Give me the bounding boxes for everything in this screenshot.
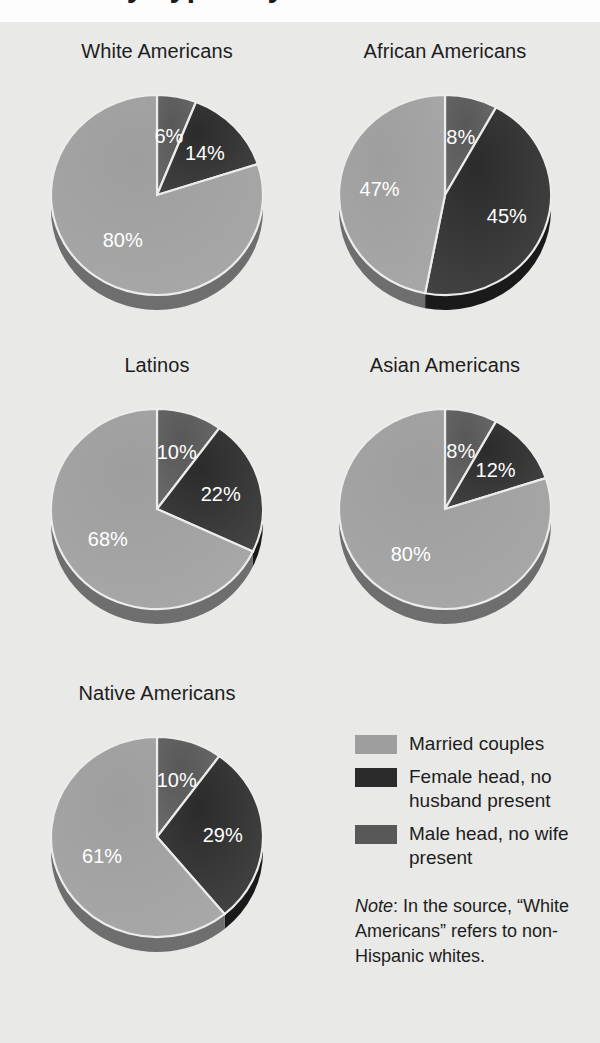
figure-note: Note: In the source, “White Americans” r… [355,894,595,969]
pie-slice-value-label: 22% [201,483,241,505]
legend-swatch-married [355,735,397,754]
pie-slice-value-label: 10% [157,441,197,463]
pie-slice-value-label: 45% [487,205,527,227]
pie-slice-value-label: 61% [82,845,122,867]
note-lead: Note [355,896,393,916]
legend-item-label: Female head, no husband present [409,765,585,813]
pie-slice-value-label: 8% [446,440,475,462]
pie-chart-african-americans: African Americans8%45%47% [300,40,590,325]
pie-chart-title: Asian Americans [300,354,590,377]
pie-chart-latinos: Latinos10%22%68% [12,354,302,639]
pie-slice-value-label: 12% [476,459,516,481]
pie-slice-value-label: 8% [446,126,475,148]
cropped-figure-title: Family Types by Race [0,0,600,22]
figure-panel: White Americans6%14%80%African Americans… [0,22,600,1043]
pie-chart-native-americans: Native Americans10%29%61% [12,682,302,967]
pie-chart-title: Latinos [12,354,302,377]
pie-slice-value-label: 47% [360,178,400,200]
pie-graphic: 6%14%80% [12,67,302,325]
pie-graphic: 10%29%61% [12,709,302,967]
pie-slice-value-label: 6% [154,125,183,147]
pie-slice-value-label: 10% [157,769,197,791]
pie-chart-white-americans: White Americans6%14%80% [12,40,302,325]
pie-slice-value-label: 68% [88,528,128,550]
chart-legend: Married couplesFemale head, no husband p… [355,732,585,879]
pie-chart-asian-americans: Asian Americans8%12%80% [300,354,590,639]
pie-graphic: 10%22%68% [12,381,302,639]
pie-chart-title: White Americans [12,40,302,63]
legend-item: Female head, no husband present [355,765,585,813]
legend-item-label: Married couples [409,732,544,756]
legend-swatch-male-head [355,825,397,844]
legend-item: Male head, no wife present [355,822,585,870]
pie-slice-value-label: 80% [391,543,431,565]
legend-swatch-female-head [355,768,397,787]
pie-graphic: 8%45%47% [300,67,590,325]
cropped-figure-title-text: Family Types by Race [46,0,367,4]
pie-slice-value-label: 80% [103,229,143,251]
pie-chart-title: Native Americans [12,682,302,705]
pie-slice-value-label: 14% [185,142,225,164]
legend-item-label: Male head, no wife present [409,822,585,870]
pie-chart-title: African Americans [300,40,590,63]
pie-slice-value-label: 29% [203,824,243,846]
pie-graphic: 8%12%80% [300,381,590,639]
legend-item: Married couples [355,732,585,756]
